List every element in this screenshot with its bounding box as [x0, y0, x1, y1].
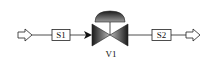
valve-body-left-icon	[92, 24, 110, 46]
valve-v1-label: V1	[106, 49, 117, 59]
process-flow-diagram: S1 V1 S2	[0, 0, 210, 65]
control-valve-v1[interactable]: V1	[92, 11, 128, 59]
stream-s2-label: S2	[157, 30, 167, 40]
valve-body-right-icon	[110, 24, 128, 46]
stream-s1-tag[interactable]: S1	[52, 30, 70, 41]
valve-actuator-icon	[95, 11, 125, 22]
stream-s1-label: S1	[56, 30, 66, 40]
outlet-arrow-icon[interactable]	[186, 29, 200, 41]
inlet-arrow-icon[interactable]	[18, 29, 32, 41]
stream-s2-tag[interactable]: S2	[152, 30, 171, 41]
